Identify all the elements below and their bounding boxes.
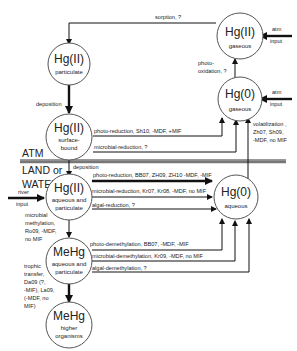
node-title: MeHg [53,245,85,259]
river-input-label-1: river [18,189,29,195]
microbial-reduction-aq-label: microbial-reduction, Kr07, Kr08, -MDF, n… [92,188,207,194]
sorption-label: sorption, ? [155,14,181,20]
node-hg2-particulate: Hg(II) particulate [48,43,90,85]
photo-oxidation-label-1: photo- [198,60,214,66]
atm-input-2-line2: input [270,101,283,107]
node-hg2-surface-bound: Hg(II) surface- bound [46,114,92,160]
node-subtitle: particulate [55,269,83,275]
trophic-label-1: trophic [24,263,41,269]
volatilization-label-1: volatilization , [253,121,287,127]
node-mehg-higher-organisms: MeHg higher organisms [46,302,92,348]
node-title: Hg(0) [225,87,255,101]
photo-reduction-aq-label: photo-reduction, BB07, ZH09, ZH10 -MDF, … [93,172,212,178]
node-subtitle: aqueous [224,203,247,209]
methylation-label-1: microbial [25,212,47,218]
node-hg0-gaseous: Hg(0) gaseous [218,77,262,121]
photo-demethylation-label: photo-demethylation, BB07, -MDF, -MIF [90,241,189,247]
trophic-label-4: -MIF), La09, [24,287,55,293]
photo-oxidation-label-2: oxidation, ? [198,68,227,74]
node-title: Hg(II) [54,52,84,66]
zone-atm: ATM [22,147,43,159]
methylation-label-3: Ro09, -MDF, [25,228,57,234]
sorption-arrow [69,23,216,44]
methylation-label-2: methylation, [25,220,56,226]
trophic-label-2: transfer, [24,271,45,277]
photo-reduction-surface-label: photo-reduction, Sh10, -MDF, +MIF [94,128,182,134]
node-subtitle: particulate [55,69,83,75]
trophic-label-3: Da09 (?, [24,279,46,285]
node-title: Hg(II) [54,121,84,135]
mercury-cycle-diagram: ATM LAND or WATER sorption, ? deposition… [0,0,297,351]
node-hg2-gaseous: Hg(II) gaseous [217,13,263,59]
algal-reduction-label: algal-reduction, ? [92,202,135,208]
microbial-reduction-surface-label: microbial-reduction, ? [94,144,147,150]
volatilization-label-3: -MDF, no MIF [253,137,287,143]
node-subtitle: aqueous and [52,261,87,267]
node-title: Hg(0) [221,185,251,199]
node-hg0-aqueous: Hg(0) aqueous [214,175,258,219]
deposition-label-2: deposition [73,164,99,170]
trophic-label-5: (-MDF, no [24,295,49,301]
zone-land: LAND or [22,164,63,176]
atm-input-1-line2: input [270,38,283,44]
volatilization-label-2: Zh07, Sh09, [253,129,284,135]
node-subtitle: bound [61,145,78,151]
node-mehg-aqueous: MeHg aqueous and particulate [46,238,92,284]
trophic-label-6: MIF) [24,303,36,309]
microbial-demethylation-label: microbial-demethylation, Kr09, -MDF, no … [92,253,204,259]
node-title: MeHg [53,309,85,323]
node-title: Hg(II) [54,181,84,195]
node-subtitle: surface- [58,137,80,143]
atm-input-1-line1: atm [272,26,282,32]
node-subtitle: higher [61,325,78,331]
node-subtitle: aqueous and [52,197,87,203]
node-title: Hg(II) [225,25,255,39]
node-subtitle: gaseous [229,43,252,49]
algal-demethylation-label: algal-demethylation, ? [92,265,147,271]
node-hg2-aqueous: Hg(II) aqueous and particulate [46,174,92,220]
node-subtitle: organisms [55,333,83,339]
river-input-label-2: input [16,201,29,207]
node-subtitle: gaseous [229,106,252,112]
atm-input-2-line1: atm [272,89,282,95]
deposition-label-1: deposition [36,101,62,107]
node-subtitle: particulate [55,205,83,211]
methylation-label-4: no MIF [25,236,43,242]
